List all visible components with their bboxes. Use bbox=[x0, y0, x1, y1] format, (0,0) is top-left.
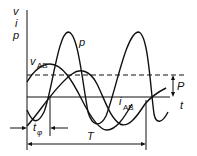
arrow-down-icon bbox=[171, 92, 175, 97]
curve-label-p: p bbox=[78, 36, 85, 48]
arrow-up-icon bbox=[171, 75, 175, 80]
arrow-right-icon bbox=[141, 142, 146, 146]
axis-label-p: p bbox=[12, 29, 19, 41]
axis-label-t: t bbox=[180, 99, 184, 111]
axis-label-i: i bbox=[15, 17, 18, 29]
axis-label-v: v bbox=[13, 5, 20, 17]
curve-label-i-sub: AB bbox=[123, 103, 134, 112]
curve-label-v-sub: AB bbox=[37, 61, 48, 70]
period-label: T bbox=[87, 130, 95, 142]
arrow-right-icon bbox=[22, 126, 27, 130]
average-power-label: P bbox=[177, 80, 185, 92]
power-waveform-diagram: v i p p v AB i AB P t t φ T bbox=[0, 0, 197, 156]
arrow-left-icon bbox=[50, 126, 55, 130]
arrow-left-icon bbox=[27, 142, 32, 146]
curve-label-v: v bbox=[30, 55, 37, 67]
power-curve bbox=[27, 32, 168, 124]
phase-shift-sub: φ bbox=[37, 128, 42, 137]
